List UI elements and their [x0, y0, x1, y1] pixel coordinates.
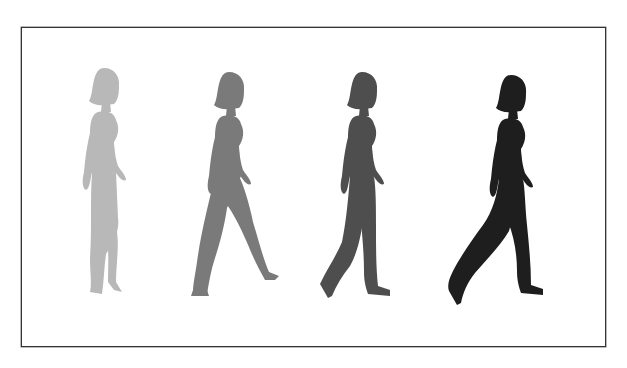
walkers-illustration — [0, 0, 627, 368]
walker-figure-2 — [191, 72, 279, 296]
walker-figure-4 — [448, 75, 543, 305]
walker-figure-3 — [320, 72, 390, 298]
walker-figure-1 — [83, 68, 126, 294]
